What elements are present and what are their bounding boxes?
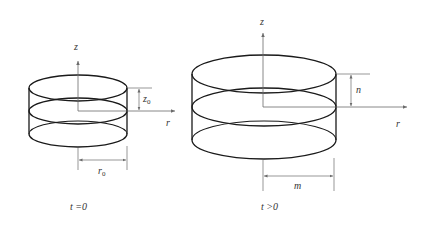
z-axis-label: z [73, 41, 78, 52]
r-axis-label: r [396, 118, 400, 129]
radius-label: r0 [98, 165, 106, 178]
top-ellipse [192, 55, 336, 93]
initial-time-caption: t =0 [70, 201, 87, 212]
height-label: z0 [142, 93, 151, 106]
r-axis-label: r [166, 117, 170, 128]
deformed-state-figure: z r n m t >0 [192, 16, 407, 212]
deformed-time-caption: t >0 [261, 201, 278, 212]
bottom-ellipse-front [29, 134, 127, 147]
bottom-ellipse-front [192, 140, 336, 159]
bottom-ellipse-back [192, 121, 336, 140]
radius-dimension: r0 [78, 146, 127, 178]
initial-state-figure: z r z0 r0 t =0 [29, 41, 175, 212]
cylinder-deformation-diagram: z r z0 r0 t =0 z r [0, 0, 426, 225]
z-axis-label: z [259, 16, 264, 27]
height-dimension: z0 [127, 88, 152, 110]
height-label: n [356, 84, 361, 95]
bottom-ellipse-back [29, 121, 127, 134]
height-dimension: n [336, 74, 370, 106]
radius-dimension: m [263, 158, 334, 191]
radius-label: m [294, 180, 301, 191]
